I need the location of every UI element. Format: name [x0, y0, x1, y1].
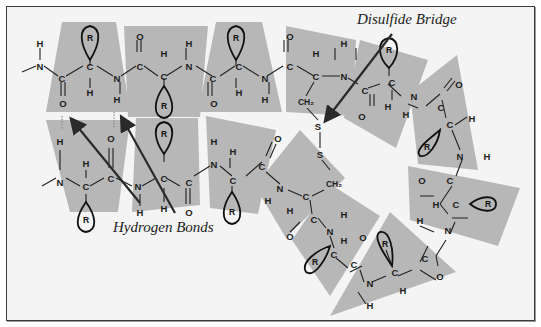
- atom-n: N: [411, 91, 418, 102]
- atom-h: H: [400, 285, 407, 296]
- atom-n: N: [135, 181, 142, 192]
- atom-c: C: [389, 77, 396, 88]
- atom-h: H: [265, 195, 272, 206]
- atom-o: O: [286, 231, 293, 242]
- atom-n: N: [211, 159, 218, 170]
- atom-o: O: [136, 31, 143, 42]
- atom-n: N: [457, 151, 464, 162]
- atom-c: C: [186, 177, 193, 188]
- atom-n: N: [367, 278, 374, 289]
- atom-h: H: [262, 94, 269, 105]
- atom-n: N: [327, 226, 334, 237]
- atom-c: C: [59, 73, 66, 84]
- atom-n: N: [277, 183, 284, 194]
- atom-o: O: [274, 133, 281, 144]
- atom-h: H: [417, 215, 424, 226]
- atom-c: C: [392, 267, 399, 278]
- svg-text:R: R: [386, 45, 392, 55]
- atom-h: H: [341, 235, 348, 246]
- atom-o: O: [418, 175, 425, 186]
- atom-c: C: [83, 181, 90, 192]
- svg-text:R: R: [382, 239, 388, 249]
- atom-c: C: [313, 71, 320, 82]
- atom-h: H: [37, 38, 44, 49]
- atom-c: C: [438, 102, 445, 113]
- atom-h: H: [341, 38, 348, 49]
- atom-h: H: [341, 209, 348, 220]
- atom-c: C: [108, 173, 115, 184]
- atom-o: O: [358, 111, 365, 122]
- atom-c: C: [210, 73, 217, 84]
- disulfide-bridge-label: Disulfide Bridge: [356, 11, 457, 27]
- atom-c: C: [161, 71, 168, 82]
- svg-text:R: R: [161, 101, 167, 111]
- svg-text:R: R: [87, 33, 93, 43]
- atom-h: H: [186, 38, 193, 49]
- atom-o: O: [436, 271, 443, 282]
- atom-n: N: [341, 71, 348, 82]
- atom-o: O: [107, 133, 114, 144]
- atom-c: C: [422, 253, 429, 264]
- atom-n: N: [186, 61, 193, 72]
- atom-o: O: [185, 207, 192, 218]
- atom-o: O: [455, 79, 462, 90]
- svg-text:R: R: [424, 142, 430, 152]
- svg-text:R: R: [83, 215, 89, 225]
- atom-c: C: [87, 61, 94, 72]
- atom-n: N: [445, 225, 452, 236]
- atom-h: H: [161, 48, 168, 59]
- atom-n: N: [114, 73, 121, 84]
- atom-n: N: [37, 61, 44, 72]
- svg-text:R: R: [312, 257, 318, 267]
- svg-text:R: R: [233, 33, 239, 43]
- atom-n: N: [262, 73, 269, 84]
- atom-o: O: [359, 232, 366, 243]
- atom-c: C: [311, 214, 318, 225]
- svg-text:R: R: [161, 129, 167, 139]
- atom-n: N: [57, 177, 64, 188]
- atom-c: C: [447, 175, 454, 186]
- atom-h: H: [137, 207, 144, 218]
- atom-h: H: [287, 205, 294, 216]
- atom-h: H: [484, 151, 491, 162]
- atom-c: C: [331, 249, 338, 260]
- atom-s: S: [317, 149, 323, 160]
- atom-ch2: CH₂: [298, 97, 314, 107]
- atom-h: H: [57, 136, 64, 147]
- atom-o: O: [210, 98, 217, 109]
- atom-c: C: [362, 85, 369, 96]
- atom-h: H: [236, 87, 243, 98]
- atom-h: H: [87, 87, 94, 98]
- atom-o: O: [59, 98, 66, 109]
- svg-text:R: R: [229, 207, 235, 217]
- atom-h: H: [230, 146, 237, 157]
- atom-c: C: [453, 199, 460, 210]
- protein-structure-diagram: R R R R R R R R R R R H N C O C H N H C …: [0, 0, 541, 327]
- atom-h: H: [469, 113, 476, 124]
- atom-c: C: [351, 259, 358, 270]
- atom-h: H: [83, 158, 90, 169]
- atom-c: C: [137, 61, 144, 72]
- atom-h: H: [385, 101, 392, 112]
- atom-o: O: [286, 31, 293, 42]
- atom-h: H: [313, 48, 320, 59]
- hydrogen-bonds-label: Hydrogen Bonds: [112, 219, 214, 235]
- atom-c: C: [259, 161, 266, 172]
- atom-s: S: [315, 121, 321, 132]
- atom-h: H: [433, 199, 440, 210]
- atom-c: C: [303, 191, 310, 202]
- atom-c: C: [236, 61, 243, 72]
- atom-h: H: [211, 136, 218, 147]
- atom-h: H: [403, 109, 410, 120]
- atom-c: C: [447, 119, 454, 130]
- atom-h: H: [367, 300, 374, 311]
- atom-ch2: CH₂: [326, 179, 342, 189]
- svg-text:R: R: [485, 199, 491, 209]
- atom-c: C: [161, 173, 168, 184]
- atom-c: C: [230, 175, 237, 186]
- atom-c: C: [287, 61, 294, 72]
- atom-h: H: [161, 203, 168, 214]
- atom-h: H: [114, 94, 121, 105]
